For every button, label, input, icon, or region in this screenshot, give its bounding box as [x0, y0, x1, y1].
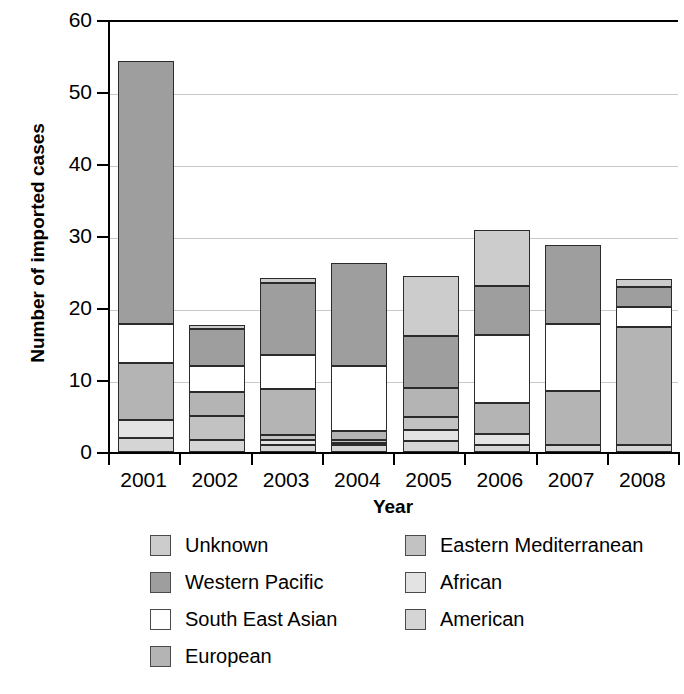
bar-segment-european	[118, 363, 174, 419]
bar-segment-south-east-asian	[616, 307, 672, 327]
bar-segment-unknown	[474, 230, 530, 286]
bar-segment-western-pacific	[118, 61, 174, 324]
legend-label: Eastern Mediterranean	[440, 534, 643, 556]
y-axis-tick-label: 50	[22, 81, 92, 102]
bar-segment-south-east-asian	[189, 366, 245, 392]
bar-segment-western-pacific	[260, 283, 316, 355]
bar-segment-south-east-asian	[331, 366, 387, 431]
bar-segment-eastern-mediterranean	[403, 417, 459, 430]
bar-2001	[118, 20, 174, 452]
bar-segment-european	[189, 392, 245, 416]
bar-segment-south-east-asian	[474, 335, 530, 403]
y-axis-tick	[97, 236, 108, 238]
bar-2008	[616, 20, 672, 452]
bar-segment-european	[616, 327, 672, 444]
legend-swatch-icon	[150, 572, 171, 593]
bar-segment-unknown	[403, 276, 459, 336]
bar-segment-european	[331, 431, 387, 440]
bar-segment-african	[260, 440, 316, 445]
bar-2003	[260, 20, 316, 452]
bar-segment-american	[331, 445, 387, 452]
bar-segment-american	[545, 445, 601, 452]
bar-2006	[474, 20, 530, 452]
legend-item: African	[405, 565, 502, 599]
bars-layer	[110, 22, 678, 452]
bar-segment-american	[474, 445, 530, 452]
legend-label: European	[185, 645, 272, 667]
bar-segment-unknown	[616, 279, 672, 288]
bar-segment-african	[403, 430, 459, 441]
bar-segment-western-pacific	[616, 287, 672, 307]
bar-segment-american	[616, 445, 672, 452]
legend-label: South East Asian	[185, 608, 337, 630]
bar-segment-african	[474, 434, 530, 445]
y-axis-tick	[97, 164, 108, 166]
legend-swatch-icon	[150, 609, 171, 630]
bar-segment-south-east-asian	[545, 324, 601, 391]
y-axis-tick-label: 20	[22, 297, 92, 318]
bar-segment-eastern-mediterranean	[331, 440, 387, 443]
bar-2004	[331, 20, 387, 452]
legend-item: European	[150, 639, 272, 673]
x-axis-tick	[678, 452, 680, 465]
legend-swatch-icon	[405, 535, 426, 556]
legend-item: Western Pacific	[150, 565, 324, 599]
y-axis-tick-label: 30	[22, 225, 92, 246]
bar-segment-unknown	[189, 325, 245, 329]
bar-2002	[189, 20, 245, 452]
x-axis-tick	[393, 452, 395, 465]
bar-segment-south-east-asian	[118, 324, 174, 364]
x-axis-tick	[607, 452, 609, 465]
legend-item: Unknown	[150, 528, 268, 562]
x-axis-tick	[536, 452, 538, 465]
y-axis-tick-label: 0	[22, 441, 92, 462]
y-axis-tick	[97, 92, 108, 94]
x-axis-tick	[179, 452, 181, 465]
x-axis-tick	[108, 452, 110, 465]
bar-segment-african	[331, 443, 387, 445]
x-axis-tick	[464, 452, 466, 465]
bar-segment-south-east-asian	[260, 355, 316, 389]
x-axis-tick-label: 2008	[597, 468, 684, 492]
legend-item: South East Asian	[150, 602, 337, 636]
bar-segment-american	[118, 438, 174, 452]
y-axis-tick-label: 60	[22, 9, 92, 30]
legend-item: Eastern Mediterranean	[405, 528, 643, 562]
legend-swatch-icon	[150, 535, 171, 556]
bar-segment-american	[189, 440, 245, 452]
plot-area	[108, 20, 678, 452]
bar-segment-european	[403, 388, 459, 418]
bar-2007	[545, 20, 601, 452]
bar-segment-eastern-mediterranean	[189, 416, 245, 440]
y-axis-tick-label: 40	[22, 153, 92, 174]
x-axis-title: Year	[108, 496, 678, 518]
bar-segment-western-pacific	[403, 336, 459, 388]
bar-segment-american	[403, 441, 459, 452]
bar-segment-african	[118, 420, 174, 438]
legend-label: African	[440, 571, 502, 593]
legend-label: Western Pacific	[185, 571, 324, 593]
bar-segment-eastern-mediterranean	[260, 435, 316, 440]
legend-label: American	[440, 608, 524, 630]
x-axis-tick	[251, 452, 253, 465]
legend-swatch-icon	[150, 646, 171, 667]
y-axis-tick	[97, 380, 108, 382]
bar-2005	[403, 20, 459, 452]
bar-segment-western-pacific	[474, 286, 530, 334]
y-axis-tick	[97, 308, 108, 310]
bar-segment-western-pacific	[545, 245, 601, 324]
bar-segment-unknown	[260, 278, 316, 283]
chart-legend: UnknownWestern PacificSouth East AsianEu…	[150, 528, 678, 694]
y-axis-tick	[97, 452, 108, 454]
bar-segment-western-pacific	[331, 263, 387, 367]
legend-label: Unknown	[185, 534, 268, 556]
legend-item: American	[405, 602, 524, 636]
bar-segment-western-pacific	[189, 329, 245, 366]
bar-segment-american	[260, 445, 316, 452]
x-axis-tick	[322, 452, 324, 465]
y-axis-tick-label: 10	[22, 369, 92, 390]
legend-swatch-icon	[405, 572, 426, 593]
bar-segment-european	[474, 403, 530, 434]
y-axis-tick	[97, 20, 108, 22]
